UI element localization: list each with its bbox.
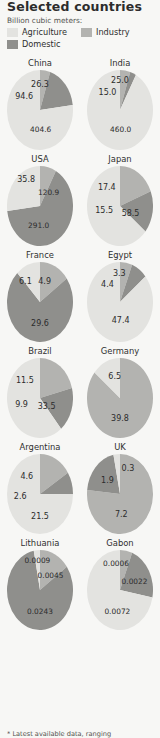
slice-value-agriculture: 33.5 <box>38 402 56 411</box>
pie-wrapper: 3.34.447.4 <box>87 262 153 342</box>
pie-wrapper: 0.00060.00220.0072 <box>87 550 153 630</box>
slice-value-domestic: 4.4 <box>101 279 114 288</box>
country-label: Argentina <box>20 442 61 453</box>
country-label: UK <box>114 442 126 453</box>
pie-wrapper: 11.59.933.5 <box>7 358 73 438</box>
legend: Agriculture Industry Domestic <box>7 27 153 50</box>
country-label: Gabon <box>106 538 133 549</box>
pie-svg <box>87 358 153 438</box>
page-title: Selected countries <box>7 0 153 11</box>
slice-value-domestic: 94.6 <box>15 92 33 101</box>
slice-value-agriculture: 0.3 <box>122 464 135 473</box>
slice-value-domestic: 29.6 <box>31 318 49 327</box>
pie-chart-france: France6.14.929.6 <box>0 250 80 346</box>
country-label: Germany <box>101 346 140 357</box>
pie-wrapper: 17.415.558.5 <box>87 166 153 246</box>
country-label: France <box>26 250 54 261</box>
slice-value-industry: 25.0 <box>111 76 129 85</box>
slice-value-industry: 26.3 <box>31 79 49 88</box>
units-label: Billion cubic meters: <box>7 16 153 25</box>
legend-row-1: Agriculture Industry <box>7 27 153 38</box>
slice-value-domestic: 15.0 <box>99 88 117 97</box>
pie-wrapper: 6.14.929.6 <box>7 262 73 342</box>
country-label: USA <box>31 154 48 165</box>
slice-value-agriculture: 120.9 <box>38 188 59 197</box>
slice-value-domestic: 0.0072 <box>104 606 130 615</box>
pie-wrapper: 4.62.621.5 <box>7 454 73 534</box>
pie-chart-brazil: Brazil11.59.933.5 <box>0 346 80 442</box>
pie-chart-usa: USA35.8120.9291.0 <box>0 154 80 250</box>
infographic-panel: Selected countries Billion cubic meters:… <box>0 0 160 738</box>
slice-value-agriculture: 404.6 <box>30 125 51 134</box>
country-label: China <box>28 58 52 69</box>
slice-value-domestic: 291.0 <box>28 221 49 230</box>
legend-item-domestic: Domestic <box>7 39 81 50</box>
slice-value-industry: 3.3 <box>113 269 126 278</box>
pie-wrapper: 35.8120.9291.0 <box>7 166 73 246</box>
slice-value-industry: 6.1 <box>19 277 32 286</box>
slice-value-agriculture: 460.0 <box>110 125 131 134</box>
pie-svg <box>87 454 153 534</box>
pie-chart-germany: Germany6.539.8 <box>80 346 160 442</box>
slice-value-domestic: 0.0243 <box>27 606 53 615</box>
slice-value-agriculture: 58.5 <box>122 209 140 218</box>
pie-chart-japan: Japan17.415.558.5 <box>80 154 160 250</box>
legend-label-agriculture: Agriculture <box>22 27 67 38</box>
slice-value-domestic: 15.5 <box>95 206 113 215</box>
pie-slice-agriculture <box>7 166 40 211</box>
legend-row-2: Domestic <box>7 39 153 50</box>
slice-value-agriculture: 47.4 <box>112 316 130 325</box>
pie-svg <box>7 358 73 438</box>
pie-chart-uk: UK0.31.97.2 <box>80 442 160 538</box>
slice-value-industry: 17.4 <box>98 182 116 191</box>
legend-swatch-industry <box>81 28 92 37</box>
slice-value-agriculture: 4.9 <box>38 277 51 286</box>
legend-item-agriculture: Agriculture <box>7 27 81 38</box>
legend-label-domestic: Domestic <box>22 39 61 50</box>
chart-header: Selected countries Billion cubic meters:… <box>0 0 160 50</box>
country-label: Egypt <box>108 250 132 261</box>
slice-value-industry: 4.6 <box>20 471 33 480</box>
slice-value-industry: 11.5 <box>16 376 34 385</box>
pie-chart-lithuania: Lithuania0.00090.00450.0243 <box>0 538 80 634</box>
legend-item-industry: Industry <box>81 27 130 38</box>
legend-swatch-agriculture <box>7 28 18 37</box>
pie-chart-india: India25.015.0460.0 <box>80 58 160 154</box>
slice-value-agriculture: 0.0006 <box>103 558 129 567</box>
slice-value-industry: 39.8 <box>111 414 129 423</box>
country-label: Japan <box>108 154 131 165</box>
slice-value-agriculture: 21.5 <box>31 511 49 520</box>
slice-value-industry: 7.2 <box>115 510 128 519</box>
pie-chart-argentina: Argentina4.62.621.5 <box>0 442 80 538</box>
pie-chart-gabon: Gabon0.00060.00220.0072 <box>80 538 160 634</box>
country-label: Lithuania <box>21 538 60 549</box>
country-label: Brazil <box>28 346 51 357</box>
pie-wrapper: 0.00090.00450.0243 <box>7 550 73 630</box>
pie-wrapper: 26.394.6404.6 <box>7 70 73 150</box>
pie-wrapper: 25.015.0460.0 <box>87 70 153 150</box>
legend-swatch-domestic <box>7 40 18 49</box>
pie-chart-egypt: Egypt3.34.447.4 <box>80 250 160 346</box>
legend-label-industry: Industry <box>96 27 130 38</box>
pie-svg <box>7 262 73 342</box>
slice-value-domestic: 2.6 <box>14 491 27 500</box>
slice-value-domestic: 9.9 <box>15 400 28 409</box>
pie-chart-grid: China26.394.6404.6India25.015.0460.0USA3… <box>0 58 160 634</box>
pie-wrapper: 0.31.97.2 <box>87 454 153 534</box>
slice-value-industry: 0.0045 <box>38 570 64 579</box>
slice-value-industry: 35.8 <box>17 174 35 183</box>
pie-chart-china: China26.394.6404.6 <box>0 58 80 154</box>
slice-value-industry: 0.0022 <box>122 577 148 586</box>
slice-value-agriculture: 6.5 <box>108 371 121 380</box>
slice-value-agriculture: 0.0009 <box>24 556 50 565</box>
country-label: India <box>110 58 131 69</box>
slice-value-domestic: 1.9 <box>101 476 114 485</box>
footnote: * Latest available data, ranging <box>7 730 156 738</box>
pie-wrapper: 6.539.8 <box>87 358 153 438</box>
